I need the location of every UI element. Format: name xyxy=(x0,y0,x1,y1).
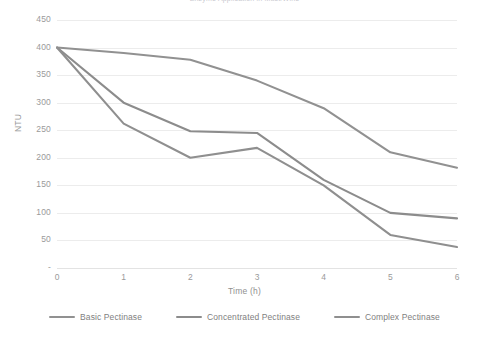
y-tick-label: 450 xyxy=(17,14,51,24)
x-tick-label: 3 xyxy=(237,272,277,282)
x-axis-title: Time (h) xyxy=(0,286,489,296)
legend-item[interactable]: Complex Pectinase xyxy=(334,312,440,322)
x-tick-label: 0 xyxy=(37,272,77,282)
y-tick-label: 250 xyxy=(17,124,51,134)
x-tick-label: 2 xyxy=(170,272,210,282)
chart-container: Enzyme Application in Must/Wine NTU 4504… xyxy=(0,0,489,337)
series-line xyxy=(57,48,457,248)
legend-swatch-icon xyxy=(176,316,202,318)
x-tick-label: 6 xyxy=(437,272,477,282)
y-tick-label: 300 xyxy=(17,97,51,107)
y-tick-label: 200 xyxy=(17,152,51,162)
chart-legend: Basic PectinaseConcentrated PectinaseCom… xyxy=(0,312,489,322)
legend-label: Basic Pectinase xyxy=(80,312,142,322)
y-tick-label: 150 xyxy=(17,179,51,189)
x-tick-label: 4 xyxy=(304,272,344,282)
legend-item[interactable]: Basic Pectinase xyxy=(49,312,142,322)
y-tick-label: 400 xyxy=(17,42,51,52)
y-tick-label: 100 xyxy=(17,207,51,217)
legend-swatch-icon xyxy=(49,316,75,318)
y-tick-label: - xyxy=(17,262,51,272)
series-lines xyxy=(57,20,457,268)
chart-title: Enzyme Application in Must/Wine xyxy=(0,0,489,4)
y-tick-label: 50 xyxy=(17,234,51,244)
legend-label: Complex Pectinase xyxy=(365,312,440,322)
legend-swatch-icon xyxy=(334,316,360,318)
x-tick-label: 1 xyxy=(104,272,144,282)
y-tick-label: 350 xyxy=(17,69,51,79)
series-line xyxy=(57,48,457,219)
x-tick-label: 5 xyxy=(370,272,410,282)
plot-area xyxy=(57,20,457,268)
legend-label: Concentrated Pectinase xyxy=(207,312,300,322)
legend-item[interactable]: Concentrated Pectinase xyxy=(176,312,300,322)
series-line xyxy=(57,48,457,168)
gridline xyxy=(57,268,457,269)
